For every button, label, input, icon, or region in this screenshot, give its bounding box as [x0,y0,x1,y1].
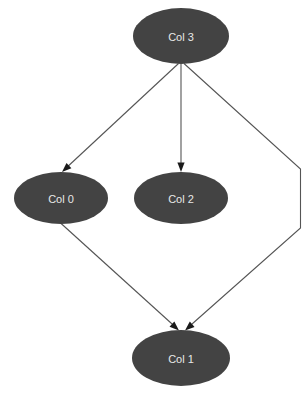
edge-col0-col1 [60,223,181,334]
graph-node-col3[interactable]: Col 3 [133,8,229,64]
arrowhead-icon [177,163,184,173]
nodes-layer: Col 3Col 0Col 2Col 1 [14,8,230,386]
edge-col3-col0 [60,64,179,175]
node-label: Col 0 [48,193,74,205]
graph-canvas: Col 3Col 0Col 2Col 1 [0,0,308,394]
node-label: Col 2 [168,193,194,205]
edge-line [65,64,179,170]
node-label: Col 3 [168,31,194,43]
graph-node-col1[interactable]: Col 1 [132,330,230,386]
node-label: Col 1 [168,353,194,365]
edge-col3-col2 [177,64,184,172]
graph-node-col0[interactable]: Col 0 [14,172,108,224]
graph-node-col2[interactable]: Col 2 [134,172,228,224]
graph-svg: Col 3Col 0Col 2Col 1 [0,0,308,394]
edge-line [60,223,177,329]
